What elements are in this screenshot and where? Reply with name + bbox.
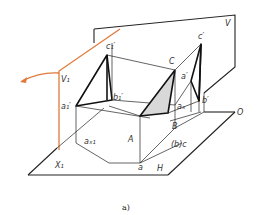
h-plane-outline xyxy=(28,148,57,175)
label-o: O xyxy=(237,109,243,117)
rotation-arrow xyxy=(22,73,59,81)
projector-line xyxy=(140,128,175,163)
label-c-prime: c′ xyxy=(198,33,204,41)
label-c1-prime: c₁′ xyxy=(106,43,115,51)
label-b-prime: b′ xyxy=(202,97,209,105)
label-ax: aₓ xyxy=(177,103,185,111)
label-x1: X₁ xyxy=(55,162,64,170)
label-v1: V₁ xyxy=(61,76,70,84)
label-a-upper: A xyxy=(128,136,133,144)
descriptive-geometry-diagram xyxy=(0,0,263,215)
label-ax1: aₓ₁ xyxy=(84,138,96,146)
label-a-lower: a xyxy=(138,164,143,172)
projector-line xyxy=(57,108,104,148)
v-plane-outline xyxy=(94,15,235,93)
projector-line xyxy=(109,106,140,116)
label-a-prime: a′ xyxy=(181,73,188,81)
label-v: V xyxy=(225,20,230,28)
projector-line xyxy=(107,55,175,70)
rotation-arrowhead-icon xyxy=(20,77,27,83)
label-c-upper: C xyxy=(169,58,175,66)
label-h: H xyxy=(157,165,163,173)
figure-caption: a) xyxy=(122,203,130,212)
projector-line xyxy=(175,112,204,128)
projector-line xyxy=(76,143,109,163)
label-a1-prime: a₁′ xyxy=(61,103,71,111)
label-bc: (b)c xyxy=(171,141,187,149)
projector-line xyxy=(76,106,150,118)
label-b-upper: B xyxy=(172,123,178,131)
label-b1-prime: b₁′ xyxy=(113,94,123,102)
